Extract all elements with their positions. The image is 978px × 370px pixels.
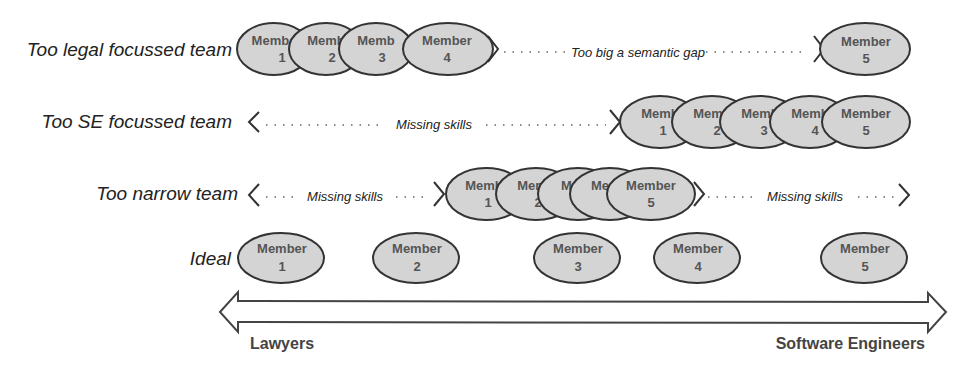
- member-ellipse: Member 5: [822, 96, 910, 148]
- row-too-narrow: Too narrow team Missing skills Memb 1 Me…: [96, 168, 909, 220]
- svg-text:1: 1: [659, 123, 666, 138]
- svg-text:3: 3: [574, 259, 581, 274]
- svg-text:Member: Member: [626, 178, 676, 193]
- member-ellipse: Member 2: [373, 233, 459, 283]
- member-ellipse: Memb 3: [339, 23, 413, 75]
- axis-label-lawyers: Lawyers: [250, 335, 314, 352]
- team-composition-diagram: Too legal focussed team Membe 1 Memb 2 M…: [0, 0, 978, 370]
- row-too-legal: Too legal focussed team Membe 1 Memb 2 M…: [27, 23, 910, 75]
- chevron-left-icon: [249, 184, 259, 206]
- double-arrow-icon: [220, 292, 946, 332]
- member-ellipse: Member 4: [403, 23, 493, 75]
- svg-text:5: 5: [861, 259, 868, 274]
- svg-text:3: 3: [760, 123, 767, 138]
- svg-text:Member: Member: [257, 241, 307, 256]
- svg-text:Member: Member: [840, 241, 890, 256]
- row-too-se: Too SE focussed team Missing skills Memb…: [42, 96, 910, 148]
- gap-label: Missing skills: [767, 189, 843, 204]
- member-ellipse: Member 5: [821, 233, 907, 283]
- svg-text:5: 5: [647, 195, 654, 210]
- chevron-right-icon: [434, 182, 444, 206]
- member-ellipse: Member 4: [654, 233, 740, 283]
- svg-text:2: 2: [328, 50, 335, 65]
- svg-text:Member: Member: [553, 241, 603, 256]
- row-label-too-se: Too SE focussed team: [42, 111, 232, 132]
- chevron-right-icon: [899, 184, 909, 206]
- svg-text:Member: Member: [673, 241, 723, 256]
- row-label-too-narrow: Too narrow team: [96, 183, 238, 204]
- svg-text:2: 2: [413, 259, 420, 274]
- svg-text:4: 4: [443, 50, 451, 65]
- svg-text:Member: Member: [422, 33, 472, 48]
- axis: Lawyers Software Engineers: [220, 292, 946, 352]
- gap-label: Too big a semantic gap: [571, 45, 705, 60]
- svg-text:Member: Member: [392, 241, 442, 256]
- svg-text:1: 1: [484, 195, 491, 210]
- chevron-left-icon: [249, 112, 259, 132]
- row-ideal: Ideal Member 1 Member 2 Member 3 Member …: [190, 233, 907, 283]
- member-ellipse: Member 3: [534, 233, 620, 283]
- axis-label-software-engineers: Software Engineers: [776, 335, 925, 352]
- member-ellipse: Member 5: [607, 168, 695, 220]
- row-label-ideal: Ideal: [190, 248, 232, 269]
- member-ellipse: Member 1: [238, 233, 324, 283]
- member-ellipse: Member 5: [820, 23, 910, 75]
- gap-label: Missing skills: [307, 189, 383, 204]
- svg-text:4: 4: [694, 259, 702, 274]
- svg-text:3: 3: [378, 50, 385, 65]
- svg-text:1: 1: [278, 50, 285, 65]
- svg-text:Memb: Memb: [357, 33, 395, 48]
- svg-text:5: 5: [862, 123, 869, 138]
- svg-text:Member: Member: [841, 34, 891, 49]
- row-label-too-legal: Too legal focussed team: [27, 39, 232, 60]
- svg-text:Member: Member: [841, 106, 891, 121]
- svg-text:4: 4: [811, 123, 819, 138]
- gap-label: Missing skills: [396, 117, 472, 132]
- svg-text:5: 5: [862, 51, 869, 66]
- svg-text:1: 1: [278, 259, 285, 274]
- chevron-right-icon: [610, 110, 620, 134]
